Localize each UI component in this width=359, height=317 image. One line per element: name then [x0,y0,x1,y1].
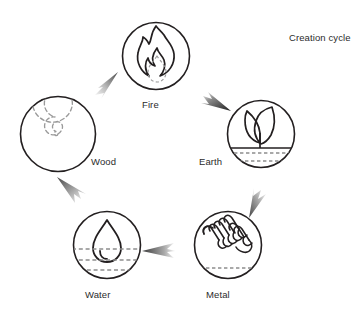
node-label-water: Water [85,290,110,300]
diagram-title: Creation cycle [289,33,351,43]
arrow-wood-to-fire [95,72,118,99]
node-label-metal: Metal [206,290,230,300]
node-label-wood: Wood [91,157,116,167]
arrow-fire-to-earth [201,92,231,111]
fire-circle-outline [123,23,190,90]
arrow-water-to-wood [57,177,86,203]
node-wood[interactable] [19,24,95,171]
arrow-earth-to-metal [249,188,266,218]
node-metal[interactable] [195,212,262,279]
node-earth[interactable] [222,101,300,168]
arrow-metal-to-water [142,243,176,258]
node-label-earth: Earth [199,157,222,167]
node-water[interactable] [72,212,142,279]
node-fire[interactable] [123,23,190,90]
cycle-graphic [0,0,359,317]
creation-cycle-diagram: Creation cycle Fire Earth Metal Water Wo… [0,0,359,317]
node-label-fire: Fire [142,100,159,110]
earth-circle-outline [228,101,295,168]
